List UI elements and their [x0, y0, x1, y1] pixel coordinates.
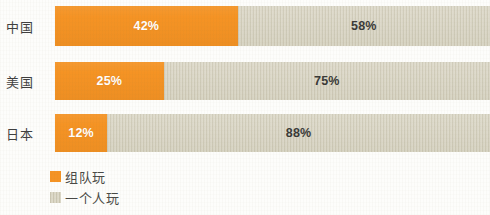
segment-value-label: 25%: [97, 74, 123, 88]
chart-legend: 组队玩 一个人玩: [50, 166, 119, 208]
bar-row: 中国 42% 58%: [0, 6, 490, 46]
bar-segment-secondary: 88%: [107, 114, 490, 152]
segment-value-label: 58%: [351, 19, 377, 33]
legend-label: 一个人玩: [65, 188, 119, 207]
legend-swatch-icon: [50, 192, 61, 203]
bar-track: 12% 88%: [55, 114, 490, 152]
bar-track: 25% 75%: [55, 62, 490, 100]
bar-segment-primary: 42%: [55, 6, 238, 46]
segment-value-label: 75%: [314, 74, 340, 88]
segment-value-label: 42%: [134, 19, 160, 33]
bar-row: 美国 25% 75%: [0, 62, 490, 100]
bar-segment-primary: 12%: [55, 114, 107, 152]
category-label: 日本: [6, 124, 34, 143]
legend-item-team-play: 组队玩: [50, 166, 119, 187]
bar-track: 42% 58%: [55, 6, 490, 46]
segment-value-label: 12%: [68, 126, 94, 140]
legend-label: 组队玩: [65, 167, 106, 186]
stacked-bar-chart: 中国 42% 58% 美国 25% 75% 日本 12%: [0, 0, 490, 215]
legend-swatch-icon: [50, 171, 61, 182]
bar-segment-primary: 25%: [55, 62, 164, 100]
bar-segment-secondary: 58%: [238, 6, 490, 46]
category-label: 美国: [6, 72, 34, 91]
bar-row: 日本 12% 88%: [0, 114, 490, 152]
legend-item-solo-play: 一个人玩: [50, 187, 119, 208]
category-label: 中国: [6, 17, 34, 36]
segment-value-label: 88%: [286, 126, 312, 140]
bar-segment-secondary: 75%: [164, 62, 490, 100]
